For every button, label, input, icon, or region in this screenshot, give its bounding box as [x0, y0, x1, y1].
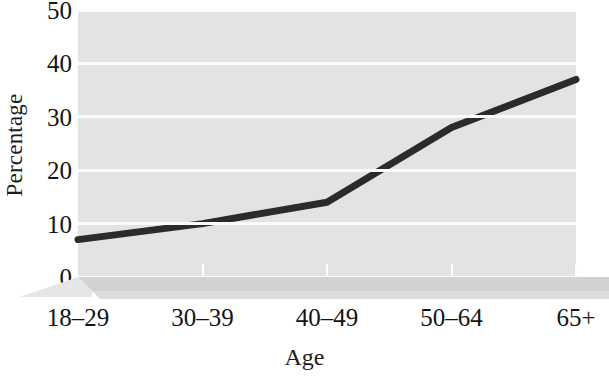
y-tick-label: 30 — [47, 104, 72, 129]
x-axis-tick-labels: 18–2930–3940–4950–6465+ — [0, 305, 609, 339]
gridline-40 — [78, 62, 576, 65]
x-tick-label: 30–39 — [171, 305, 234, 330]
y-axis-tick-labels: 01020304050 — [26, 0, 76, 290]
x-tick-label: 18–29 — [47, 305, 110, 330]
y-tick-label: 40 — [47, 51, 72, 76]
x-tick-mark — [326, 264, 328, 277]
gridline-20 — [78, 169, 576, 172]
x-tick-label: 65+ — [556, 305, 595, 330]
x-tick-mark — [575, 264, 577, 277]
y-tick-label: 50 — [47, 0, 72, 23]
x-tick-label: 50–64 — [420, 305, 483, 330]
y-tick-label: 10 — [47, 211, 72, 236]
floor-3d-decoration — [0, 277, 609, 303]
x-axis-title: Age — [0, 344, 609, 371]
gridline-50 — [78, 9, 576, 12]
x-tick-mark — [202, 264, 204, 277]
plot-area — [78, 10, 576, 277]
y-axis-title-text: Percentage — [2, 94, 28, 197]
gridline-10 — [78, 222, 576, 225]
y-tick-label: 20 — [47, 158, 72, 183]
x-tick-mark — [451, 264, 453, 277]
data-series-line — [78, 10, 576, 277]
line-chart: Percentage 01020304050 18–2930–3940–4950… — [0, 0, 609, 382]
x-tick-label: 40–49 — [296, 305, 359, 330]
gridline-30 — [78, 115, 576, 118]
